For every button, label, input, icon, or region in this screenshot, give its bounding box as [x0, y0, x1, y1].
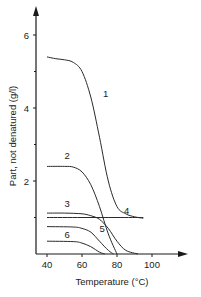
curve-label-2: 2 [65, 150, 70, 161]
x-tick-label: 80 [112, 259, 123, 270]
curve-label-1: 1 [103, 88, 108, 99]
y-axis-label: Part, not denatured (g/l) [7, 61, 18, 211]
y-tick-label: 2 [24, 176, 29, 187]
x-tick-label: 40 [42, 259, 53, 270]
curve-label-6: 6 [65, 229, 70, 240]
y-axis-arrow-icon [33, 6, 39, 16]
curve-6 [47, 241, 105, 254]
x-tick-label: 100 [144, 259, 160, 270]
x-axis-arrow-icon [178, 251, 188, 257]
curve-label-5: 5 [100, 223, 105, 234]
x-tick-label: 60 [77, 259, 88, 270]
y-tick-label: 6 [24, 30, 29, 41]
curve-label-4: 4 [124, 205, 129, 216]
x-axis-label: Temperature (°C) [62, 276, 162, 287]
y-tick-label: 4 [24, 103, 29, 114]
axes: 246406080100 [24, 6, 188, 270]
curve-label-3: 3 [65, 198, 70, 209]
curve-labels: 123456 [65, 88, 130, 240]
curves [47, 57, 143, 254]
chart-plot: 246406080100 123456 [0, 0, 201, 297]
